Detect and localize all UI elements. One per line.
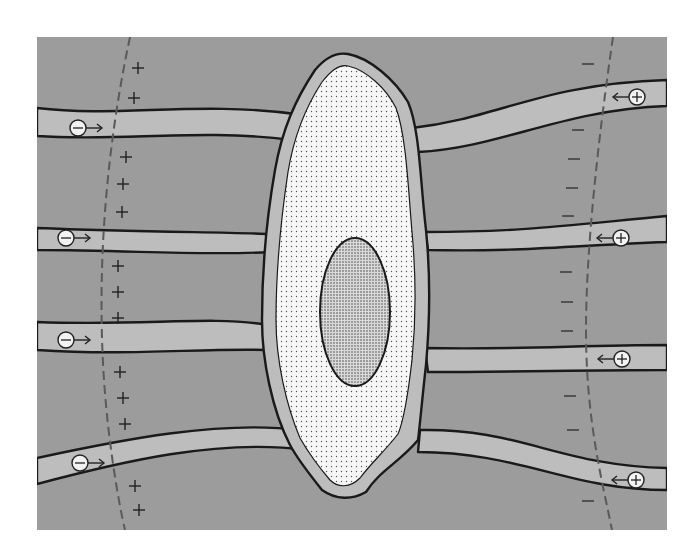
cell-ion-channel-diagram [0, 0, 696, 546]
nucleus [320, 238, 390, 386]
